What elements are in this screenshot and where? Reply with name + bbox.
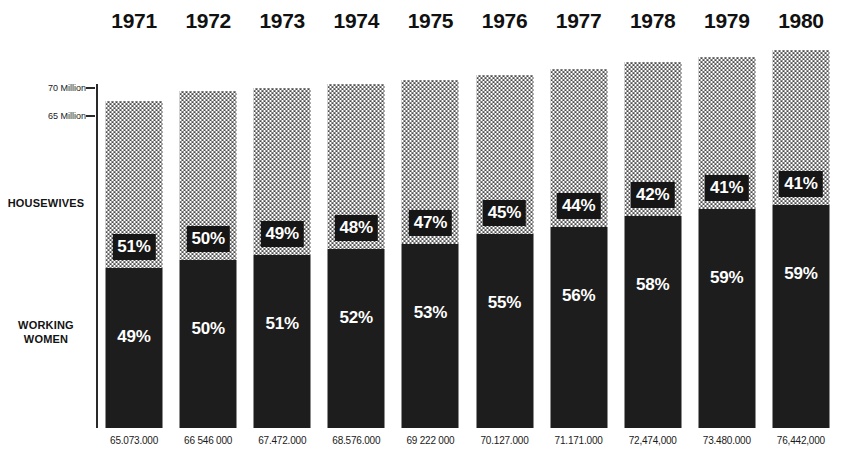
bar-segment-housewives[interactable]: 51% (106, 101, 163, 268)
bar-value-label-housewives: 51% (112, 234, 155, 260)
y-axis-tick-65m (86, 115, 95, 117)
total-label: 66 546 000 (171, 433, 245, 449)
year-label: 1978 (616, 6, 690, 36)
total-label: 73.480.000 (690, 433, 764, 449)
bar-segment-working-women[interactable]: 51% (254, 255, 311, 428)
total-label: 71.171.000 (542, 433, 616, 449)
bar-value-label-working-women: 51% (266, 315, 299, 332)
series-label-working-women-line1: WORKING (0, 318, 92, 332)
stacked-bar[interactable]: 50% 50% (180, 91, 237, 428)
bar-segment-housewives[interactable]: 48% (328, 84, 385, 249)
bar-segment-working-women[interactable]: 58% (624, 216, 681, 428)
year-label: 1975 (393, 6, 467, 36)
bar-column: 48% 52% (319, 50, 393, 428)
bar-segment-housewives[interactable]: 41% (772, 50, 829, 205)
bar-value-label-working-women: 55% (488, 294, 521, 311)
bar-segment-working-women[interactable]: 59% (698, 209, 755, 428)
bar-column: 49% 51% (245, 50, 319, 428)
bar-column: 50% 50% (171, 50, 245, 428)
bar-column: 51% 49% (97, 50, 171, 428)
bar-column: 45% 55% (467, 50, 541, 428)
year-label: 1972 (171, 6, 245, 36)
bar-value-label-working-women: 58% (636, 276, 669, 293)
y-axis-tick-70m (86, 87, 95, 89)
bar-value-label-housewives: 44% (557, 193, 600, 219)
bar-segment-working-women[interactable]: 52% (328, 249, 385, 428)
bar-value-label-working-women: 59% (710, 269, 743, 286)
bar-segment-working-women[interactable]: 50% (180, 260, 237, 429)
bar-value-label-working-women: 49% (117, 328, 150, 345)
year-label: 1974 (319, 6, 393, 36)
bar-column: 41% 59% (690, 50, 764, 428)
bar-segment-housewives[interactable]: 41% (698, 57, 755, 209)
bar-segment-housewives[interactable]: 42% (624, 62, 681, 216)
total-label: 72,474,000 (616, 433, 690, 449)
stacked-bar[interactable]: 45% 55% (476, 75, 533, 428)
year-label: 1979 (690, 6, 764, 36)
bar-segment-working-women[interactable]: 53% (402, 244, 459, 428)
plot-area: 51% 49% 50% 50% 49% (97, 50, 838, 428)
year-label: 1976 (467, 6, 541, 36)
y-axis: 70 Million 65 Million (0, 0, 86, 458)
bar-value-label-working-women: 53% (414, 304, 447, 321)
bar-value-label-working-women: 59% (784, 265, 817, 282)
bar-value-label-housewives: 45% (483, 200, 526, 226)
total-label: 65.073.000 (97, 433, 171, 449)
bar-value-label-housewives: 42% (631, 182, 674, 208)
bar-segment-working-women[interactable]: 49% (106, 268, 163, 428)
bar-value-label-working-women: 50% (191, 320, 224, 337)
bar-value-label-housewives: 48% (335, 215, 378, 241)
y-axis-tick-label-70m: 70 Million (2, 83, 86, 93)
year-label: 1971 (97, 6, 171, 36)
total-label: 68.576.000 (319, 433, 393, 449)
year-label: 1973 (245, 6, 319, 36)
bar-value-label-working-women: 56% (562, 287, 595, 304)
bar-value-label-working-women: 52% (340, 309, 373, 326)
stacked-bar[interactable]: 48% 52% (328, 84, 385, 428)
stacked-bar[interactable]: 42% 58% (624, 62, 681, 428)
stacked-bar-chart: 1971 1972 1973 1974 1975 1976 1977 1978 … (0, 0, 844, 458)
year-label: 1980 (764, 6, 838, 36)
y-axis-tick-label-65m: 65 Million (2, 111, 86, 121)
bar-segment-housewives[interactable]: 47% (402, 80, 459, 244)
bar-value-label-housewives: 49% (261, 221, 304, 247)
year-axis-labels: 1971 1972 1973 1974 1975 1976 1977 1978 … (97, 6, 838, 36)
total-label: 76,442,000 (764, 433, 838, 449)
bar-segment-working-women[interactable]: 55% (476, 234, 533, 428)
series-label-working-women-line2: WOMEN (0, 332, 92, 346)
bar-segment-housewives[interactable]: 44% (550, 69, 607, 227)
bar-value-label-housewives: 50% (186, 226, 229, 252)
totals-row: 65.073.000 66 546 000 67.472.000 68.576.… (97, 433, 838, 449)
stacked-bar[interactable]: 41% 59% (698, 57, 755, 428)
bar-segment-housewives[interactable]: 50% (180, 91, 237, 260)
bar-column: 47% 53% (393, 50, 467, 428)
series-label-working-women: WORKING WOMEN (0, 318, 92, 346)
stacked-bar[interactable]: 51% 49% (106, 101, 163, 428)
bar-segment-working-women[interactable]: 56% (550, 227, 607, 428)
total-label: 70.127.000 (467, 433, 541, 449)
stacked-bar[interactable]: 49% 51% (254, 88, 311, 428)
total-label: 69 222 000 (393, 433, 467, 449)
bar-segment-housewives[interactable]: 45% (476, 75, 533, 234)
bar-segment-working-women[interactable]: 59% (772, 205, 829, 428)
year-label: 1977 (542, 6, 616, 36)
bar-column: 42% 58% (616, 50, 690, 428)
stacked-bar[interactable]: 44% 56% (550, 69, 607, 428)
stacked-bar[interactable]: 47% 53% (402, 80, 459, 428)
bar-value-label-housewives: 47% (409, 210, 452, 236)
stacked-bar[interactable]: 41% 59% (772, 50, 829, 428)
bar-value-label-housewives: 41% (705, 175, 748, 201)
bar-column: 41% 59% (764, 50, 838, 428)
total-label: 67.472.000 (245, 433, 319, 449)
bar-column: 44% 56% (542, 50, 616, 428)
series-label-housewives: HOUSEWIVES (0, 196, 92, 210)
bar-value-label-housewives: 41% (779, 171, 822, 197)
bar-segment-housewives[interactable]: 49% (254, 88, 311, 255)
